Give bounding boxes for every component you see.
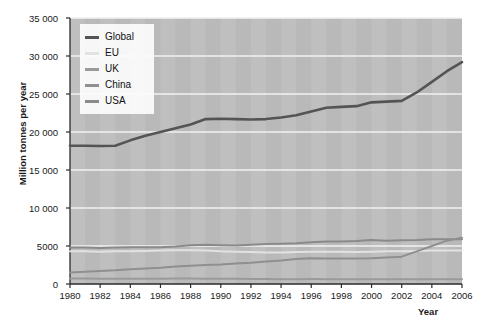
legend-label: USA (105, 96, 126, 106)
legend-item-usa[interactable]: USA (85, 93, 150, 109)
legend-item-global[interactable]: Global (85, 29, 150, 45)
legend-swatch-icon (85, 52, 99, 55)
legend-item-uk[interactable]: UK (85, 61, 150, 77)
legend-label: UK (105, 64, 119, 74)
legend-label: China (105, 80, 131, 90)
legend-swatch-icon (85, 84, 99, 87)
legend-item-china[interactable]: China (85, 77, 150, 93)
legend-label: EU (105, 48, 119, 58)
chart-figure: Million tonnes per year Year 0500010 000… (0, 0, 480, 322)
legend-label: Global (105, 32, 134, 42)
plot-area (0, 0, 480, 322)
legend-swatch-icon (85, 100, 99, 103)
chart-legend: GlobalEUUKChinaUSA (80, 24, 154, 114)
legend-swatch-icon (85, 36, 99, 39)
legend-swatch-icon (85, 68, 99, 71)
legend-item-eu[interactable]: EU (85, 45, 150, 61)
